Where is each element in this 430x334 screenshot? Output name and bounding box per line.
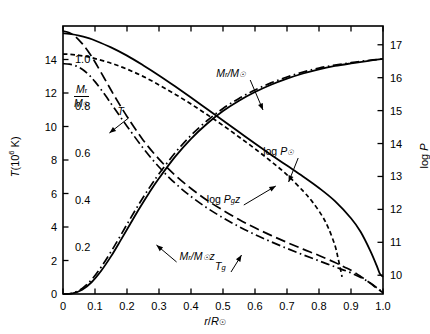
x-tick-label: 0.2 xyxy=(119,300,134,312)
x-tick-label: 1.0 xyxy=(375,300,390,312)
chart-canvas: 00.10.20.30.40.50.60.70.80.91.0024681012… xyxy=(0,0,430,334)
annotation-label-log-pgz: log Pgz xyxy=(207,194,240,206)
y-left-mass-axis-title: MrM☉ xyxy=(74,84,89,110)
x-axis-title: r/R☉ xyxy=(0,315,430,327)
y-right-tick-label: 16 xyxy=(390,72,402,84)
x-tick-label: 0.8 xyxy=(311,300,326,312)
chart-background xyxy=(0,0,430,334)
annotation-label-tz: Tg xyxy=(215,261,226,273)
y-left-tick-label: 12 xyxy=(45,87,57,99)
y-left-mass-tick-label: 0.2 xyxy=(75,241,90,253)
y-left-tick-label: 0 xyxy=(51,288,57,300)
mass-axis-denominator: M☉ xyxy=(74,98,89,110)
y-left-mass-tick-label: 0.4 xyxy=(75,194,90,206)
y-left-tick-label: 10 xyxy=(45,121,57,133)
x-tick-label: 0.7 xyxy=(279,300,294,312)
annotation-label-mr-msun: Mr/M☉ xyxy=(216,68,246,80)
x-tick-label: 0.1 xyxy=(87,300,102,312)
y-right-tick-label: 15 xyxy=(390,105,402,117)
y-left-tick-label: 6 xyxy=(51,188,57,200)
y-left-tick-label: 2 xyxy=(51,255,57,267)
y-right-tick-label: 11 xyxy=(390,236,401,248)
y-left-tick-label: 8 xyxy=(51,154,57,166)
x-tick-label: 0 xyxy=(60,300,66,312)
annotation-label-mr-msun-z: Mr/M☉z xyxy=(180,251,215,263)
y-right-tick-label: 10 xyxy=(390,269,402,281)
x-tick-label: 0.6 xyxy=(247,300,262,312)
y-right-tick-label: 17 xyxy=(390,39,402,51)
y-left-tick-label: 4 xyxy=(51,221,57,233)
y-right-tick-label: 13 xyxy=(390,170,402,182)
mass-axis-numerator: Mr xyxy=(74,84,89,96)
x-tick-label: 0.9 xyxy=(343,300,358,312)
x-tick-label: 0.4 xyxy=(183,300,198,312)
annotation-label-t: T xyxy=(118,106,124,117)
y-left-axis-title: T(106 K) xyxy=(7,117,21,197)
y-right-tick-label: 14 xyxy=(390,138,402,150)
x-tick-label: 0.5 xyxy=(215,300,230,312)
y-left-mass-tick-label: 0.6 xyxy=(75,147,90,159)
y-left-tick-label: 14 xyxy=(45,54,57,66)
y-right-axis-title: log P xyxy=(418,133,430,179)
y-left-mass-tick-label: 1.0 xyxy=(75,53,90,65)
x-tick-label: 0.3 xyxy=(151,300,166,312)
figure-stellar-structure: 00.10.20.30.40.50.60.70.80.91.0024681012… xyxy=(0,0,430,334)
annotation-label-log-psun: log P☉ xyxy=(263,146,294,158)
y-right-tick-label: 12 xyxy=(390,203,402,215)
